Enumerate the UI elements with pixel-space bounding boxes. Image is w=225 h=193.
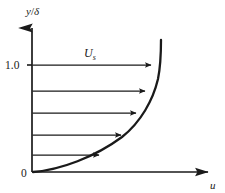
y-axis-group <box>27 28 32 172</box>
velocity-profile-figure: y/δ 1.0 0 Us u <box>0 0 225 193</box>
y-axis-label: y/δ <box>25 5 40 17</box>
velocity-profile-svg: y/δ 1.0 0 Us u <box>0 0 225 193</box>
free-stream-label-sub: s <box>93 53 96 62</box>
y-tick-label-1: 1.0 <box>5 59 20 71</box>
profile-curve-group <box>33 40 161 172</box>
y-axis-label-delta: δ <box>34 5 40 17</box>
velocity-profile-curve <box>33 40 161 172</box>
velocity-arrows-group <box>33 65 152 155</box>
x-axis-label: u <box>210 179 216 191</box>
origin-label: 0 <box>21 167 27 179</box>
labels-group: y/δ 1.0 0 Us u <box>5 5 216 191</box>
free-stream-velocity-label: Us <box>84 46 96 62</box>
